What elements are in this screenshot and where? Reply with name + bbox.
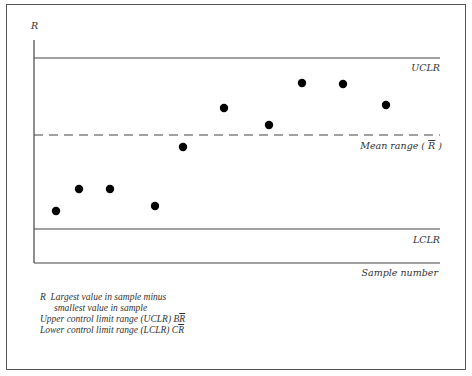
data-point <box>298 79 306 87</box>
lclr-label: LCLR <box>412 234 440 245</box>
legend: R Largest value in sample minus smallest… <box>40 292 185 336</box>
data-point <box>52 207 60 215</box>
data-point <box>75 185 83 193</box>
data-points <box>52 79 390 215</box>
data-point <box>265 121 273 129</box>
legend-lclr: Lower control limit range (LCLR) CR <box>40 325 185 336</box>
data-point <box>179 143 187 151</box>
uclr-label: UCLR <box>411 62 440 73</box>
data-point <box>106 185 114 193</box>
legend-uclr: Upper control limit range (UCLR) BR <box>40 314 185 325</box>
data-point <box>382 101 390 109</box>
y-axis-label: R <box>30 20 38 31</box>
legend-r-line1: R Largest value in sample minus <box>40 292 185 303</box>
data-point <box>220 104 228 112</box>
mean-range-label: Mean range ( R ) <box>359 140 442 151</box>
x-axis-label: Sample number <box>362 267 440 278</box>
data-point <box>151 202 159 210</box>
data-point <box>339 80 347 88</box>
legend-r-line2: smallest value in sample <box>40 303 185 314</box>
